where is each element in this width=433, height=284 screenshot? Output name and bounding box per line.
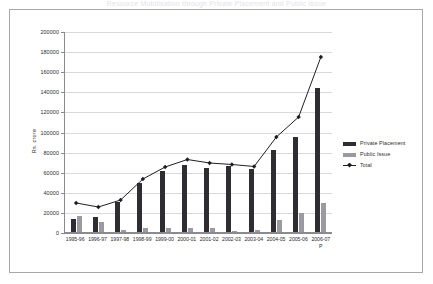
bar-group: [110, 32, 132, 232]
bar-private-placement: [182, 165, 187, 232]
chart-frame: Rs. crore 200000180000160000140000120000…: [9, 9, 423, 273]
clipped-chart-title: Resource Mobilisation through Private Pl…: [0, 0, 433, 8]
bar-group: [65, 32, 87, 232]
gridline: [65, 233, 332, 234]
y-axis-tick-label: 100000: [40, 130, 59, 136]
bar-group: [176, 32, 198, 232]
bar-public-issue: [210, 228, 215, 232]
chart-page: Resource Mobilisation through Private Pl…: [0, 0, 433, 284]
bar-public-issue: [255, 230, 260, 232]
y-axis-tick-label: 200000: [40, 29, 59, 35]
chart-legend: Private PlacementPublic IssueTotal: [343, 138, 421, 171]
y-axis-tick: [61, 233, 65, 234]
legend-item-label: Total: [360, 162, 372, 169]
legend-item[interactable]: Private Placement: [343, 138, 421, 149]
bar-series-group: [65, 32, 332, 232]
x-axis-tick-label: 1996-97: [86, 236, 108, 250]
bar-group: [199, 32, 221, 232]
y-axis-tick-label: 60000: [44, 170, 60, 176]
y-axis-tick-label: 160000: [40, 69, 59, 75]
bar-public-issue: [277, 220, 282, 232]
x-axis-labels: 1995-961996-971997-981998-991999-002000-…: [64, 236, 332, 250]
x-axis-tick-label: 2002-03: [220, 236, 242, 250]
bar-public-issue: [143, 228, 148, 232]
x-axis-tick-label: 1999-00: [153, 236, 175, 250]
bar-group: [243, 32, 265, 232]
bar-public-issue: [299, 213, 304, 232]
x-axis-tick-label: 1995-96: [64, 236, 86, 250]
total-line-swatch: [343, 163, 356, 169]
bar-private-placement: [293, 137, 298, 232]
y-axis-tick-label: 0: [56, 230, 59, 236]
plot-area: 2000001800001600001400001200001000008000…: [64, 32, 332, 233]
legend-item-label: Public Issue: [360, 151, 390, 158]
x-axis-tick-label: 1998-99: [131, 236, 153, 250]
private-placement-swatch: [343, 142, 356, 146]
bar-group: [265, 32, 287, 232]
bar-public-issue: [232, 231, 237, 232]
y-axis-tick-label: 80000: [44, 150, 60, 156]
y-axis-tick-label: 40000: [44, 190, 60, 196]
legend-item[interactable]: Total: [343, 160, 421, 171]
bar-private-placement: [93, 217, 98, 232]
bar-private-placement: [160, 171, 165, 232]
x-axis-tick-label: 1997-98: [109, 236, 131, 250]
bar-public-issue: [121, 230, 126, 232]
x-axis-tick-label: 2004-05: [265, 236, 287, 250]
bar-private-placement: [249, 169, 254, 232]
x-axis-tick-label: 2005-06: [287, 236, 309, 250]
x-axis-tick-label: 2001-02: [198, 236, 220, 250]
bar-private-placement: [71, 219, 76, 232]
legend-item-label: Private Placement: [360, 140, 405, 147]
bar-public-issue: [99, 222, 104, 232]
y-axis-tick-label: 140000: [40, 89, 59, 95]
x-axis-tick-label: 2006-07P: [310, 236, 332, 250]
bar-public-issue: [321, 203, 326, 232]
y-axis-tick-label: 120000: [40, 109, 59, 115]
bar-private-placement: [137, 183, 142, 232]
bar-public-issue: [77, 216, 82, 232]
y-axis-tick-label: 20000: [44, 210, 60, 216]
bar-group: [132, 32, 154, 232]
bar-private-placement: [315, 88, 320, 232]
x-axis-tick-label: 2000-01: [176, 236, 198, 250]
bar-group: [154, 32, 176, 232]
bar-group: [87, 32, 109, 232]
bar-public-issue: [188, 228, 193, 232]
bar-public-issue: [166, 228, 171, 232]
x-axis-tick-label: 2003-04: [243, 236, 265, 250]
public-issue-swatch: [343, 153, 356, 157]
bar-private-placement: [271, 150, 276, 232]
bar-group: [310, 32, 332, 232]
y-axis-tick-label: 180000: [40, 49, 59, 55]
legend-item[interactable]: Public Issue: [343, 149, 421, 160]
bar-private-placement: [115, 202, 120, 232]
bar-group: [221, 32, 243, 232]
bar-private-placement: [204, 168, 209, 232]
bar-group: [288, 32, 310, 232]
y-axis-title: Rs. crore: [31, 129, 37, 154]
bar-private-placement: [226, 166, 231, 232]
